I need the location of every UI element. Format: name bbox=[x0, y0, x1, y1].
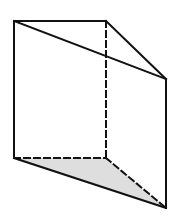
visible-edge bbox=[14, 21, 166, 79]
triangular-prism-diagram bbox=[0, 0, 176, 223]
diagram-canvas bbox=[0, 0, 176, 223]
visible-edge bbox=[106, 21, 166, 79]
